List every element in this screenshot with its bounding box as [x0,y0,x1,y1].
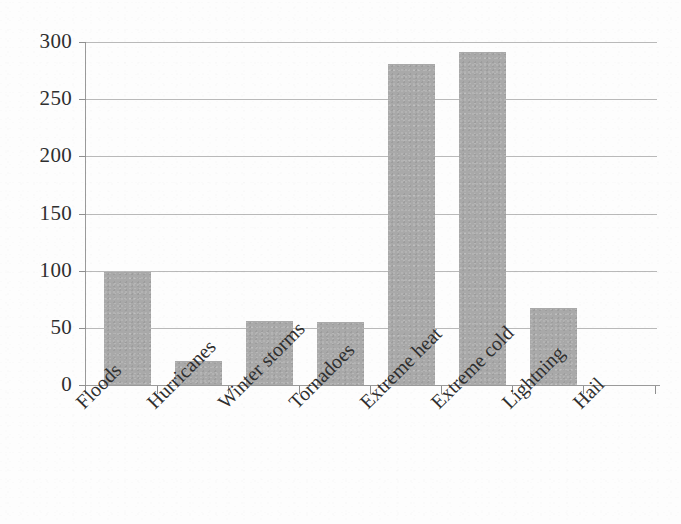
bar-chart: 300 250 200 150 100 50 0 Floods Hurrican… [0,0,681,524]
gridline-300 [85,42,657,43]
gridline-200 [85,156,657,157]
y-tick-mark-50 [79,328,86,329]
gridline-150 [85,214,657,215]
y-tick-mark-250 [79,99,86,100]
y-tick-mark-300 [79,42,86,43]
y-tick-mark-150 [79,214,86,215]
y-tick-label-50: 50 [6,317,72,338]
y-tick-label-0: 0 [6,374,72,395]
y-tick-label-150: 150 [6,203,72,224]
gridline-100 [85,271,657,272]
y-tick-label-250: 250 [6,88,72,109]
y-axis-tick-labels: 300 250 200 150 100 50 0 [0,0,72,524]
y-tick-mark-200 [79,156,86,157]
y-tick-label-300: 300 [6,31,72,52]
y-tick-mark-100 [79,271,86,272]
plot-area [85,42,660,385]
y-tick-label-200: 200 [6,145,72,166]
x-tick-mark-8 [655,386,656,394]
gridline-250 [85,99,657,100]
y-tick-label-100: 100 [6,260,72,281]
